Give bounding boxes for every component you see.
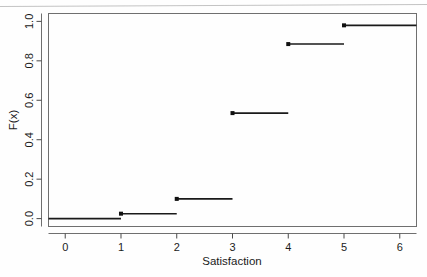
- x-tick-label: 6: [397, 241, 403, 253]
- y-axis-label: F(x): [7, 110, 19, 131]
- x-tick-label: 4: [285, 241, 291, 253]
- step-point: [286, 42, 290, 46]
- x-tick-label: 2: [174, 241, 180, 253]
- x-tick-label: 5: [341, 241, 347, 253]
- step-point: [231, 111, 235, 115]
- ecdf-step-plot: 0123456 0.00.20.40.60.81.0 Satisfaction …: [0, 0, 427, 277]
- y-tick-label: 0.2: [23, 172, 35, 187]
- step-function-group: [49, 23, 417, 218]
- x-tick-label: 0: [62, 241, 68, 253]
- x-tick-label: 3: [229, 241, 235, 253]
- step-point: [175, 197, 179, 201]
- y-tick-label: 0.6: [23, 93, 35, 108]
- figure-page: 0123456 0.00.20.40.60.81.0 Satisfaction …: [0, 0, 427, 277]
- x-tick-group: 0123456: [62, 234, 403, 254]
- step-point: [342, 23, 346, 27]
- plot-frame: [49, 14, 417, 227]
- x-axis-label: Satisfaction: [202, 255, 261, 267]
- y-tick-label: 0.0: [23, 211, 35, 226]
- y-tick-label: 1.0: [23, 14, 35, 29]
- y-tick-label: 0.4: [23, 132, 35, 147]
- step-point: [119, 212, 123, 216]
- x-tick-label: 1: [118, 241, 124, 253]
- y-tick-label: 0.8: [23, 53, 35, 68]
- y-tick-group: 0.00.20.40.60.81.0: [23, 14, 42, 227]
